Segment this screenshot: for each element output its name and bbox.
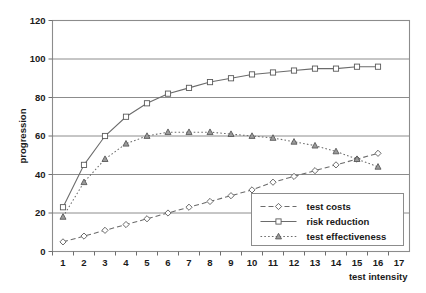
series-0-point-3-diamond-marker [123,221,129,227]
series-1-point-6-square-marker [186,85,191,90]
y-tick-label-120: 120 [30,15,46,26]
series-1-point-4-square-marker [144,101,149,106]
series-0-point-1-diamond-marker [81,233,87,239]
y-tick-label-40: 40 [35,169,46,180]
y-tick-label-80: 80 [35,92,46,103]
x-tick-label-10: 10 [247,257,258,268]
x-tick-label-15: 15 [352,257,363,268]
x-axis-title: test intensity [349,271,408,282]
series-1-point-3-square-marker [123,114,128,119]
x-tick-label-7: 7 [186,257,191,268]
x-tick-label-3: 3 [102,257,107,268]
y-tick-label-60: 60 [35,130,46,141]
series-2-point-12-triangle-marker [312,142,318,148]
series-2-point-7-triangle-marker [207,129,213,135]
series-0-point-7-diamond-marker [207,198,213,204]
legend-label-0: test costs [307,201,351,212]
series-0-point-4-diamond-marker [144,216,150,222]
x-tick-label-11: 11 [268,257,279,268]
legend-label-2: test effectiveness [307,231,387,242]
series-1-point-2-square-marker [102,133,107,138]
series-1-point-5-square-marker [165,91,170,96]
legend-sample-1-square-marker [276,219,281,224]
x-tick-label-2: 2 [81,257,86,268]
x-tick-label-9: 9 [228,257,233,268]
x-tick-label-1: 1 [60,257,66,268]
series-0-point-9-diamond-marker [249,187,255,193]
series-1-point-15-square-marker [375,64,380,69]
series-1-point-8-square-marker [228,76,233,81]
y-tick-label-0: 0 [40,246,45,257]
series-line-1 [63,67,378,208]
x-axis: 1234567891011121314151617 [53,252,405,268]
series-2-point-5-triangle-marker [165,129,171,135]
x-tick-label-4: 4 [123,257,129,268]
series-2-point-1-triangle-marker [81,179,87,185]
series-1-point-11-square-marker [291,68,296,73]
line-chart: 020406080100120progression12345678910111… [0,0,426,293]
series-2-point-11-triangle-marker [291,139,297,145]
series-1-point-1-square-marker [81,162,86,167]
x-tick-label-16: 16 [373,257,384,268]
x-tick-label-5: 5 [144,257,150,268]
series-1-point-7-square-marker [207,80,212,85]
series-0-point-0-diamond-marker [60,239,66,245]
series-0-point-15-diamond-marker [375,150,381,156]
x-tick-label-8: 8 [207,257,212,268]
series-risk-reduction [60,64,380,210]
series-0-point-13-diamond-marker [333,162,339,168]
grid-lines [53,21,410,214]
series-2-point-0-triangle-marker [60,214,66,220]
series-0-point-10-diamond-marker [270,179,276,185]
series-0-point-2-diamond-marker [102,227,108,233]
series-0-point-8-diamond-marker [228,193,234,199]
x-tick-label-17: 17 [394,257,405,268]
series-1-point-12-square-marker [312,66,317,71]
y-tick-label-20: 20 [35,207,46,218]
series-1-point-14-square-marker [354,64,359,69]
series-1-point-0-square-marker [60,205,65,210]
legend: test costsrisk reductiontest effectivene… [252,194,404,246]
x-tick-label-13: 13 [310,257,321,268]
series-1-point-10-square-marker [270,70,275,75]
y-axis: 020406080100120 [30,15,53,257]
x-tick-label-6: 6 [165,257,170,268]
series-0-point-12-diamond-marker [312,168,318,174]
series-0-point-5-diamond-marker [165,210,171,216]
series-1-point-9-square-marker [249,72,254,77]
series-2-point-2-triangle-marker [102,156,108,162]
x-tick-label-14: 14 [331,257,342,268]
x-tick-label-12: 12 [289,257,300,268]
series-1-point-13-square-marker [333,66,338,71]
legend-label-1: risk reduction [307,216,370,227]
y-axis-title: progression [17,108,28,163]
series-0-point-6-diamond-marker [186,204,192,210]
chart-container: 020406080100120progression12345678910111… [0,0,426,293]
y-tick-label-100: 100 [30,53,46,64]
